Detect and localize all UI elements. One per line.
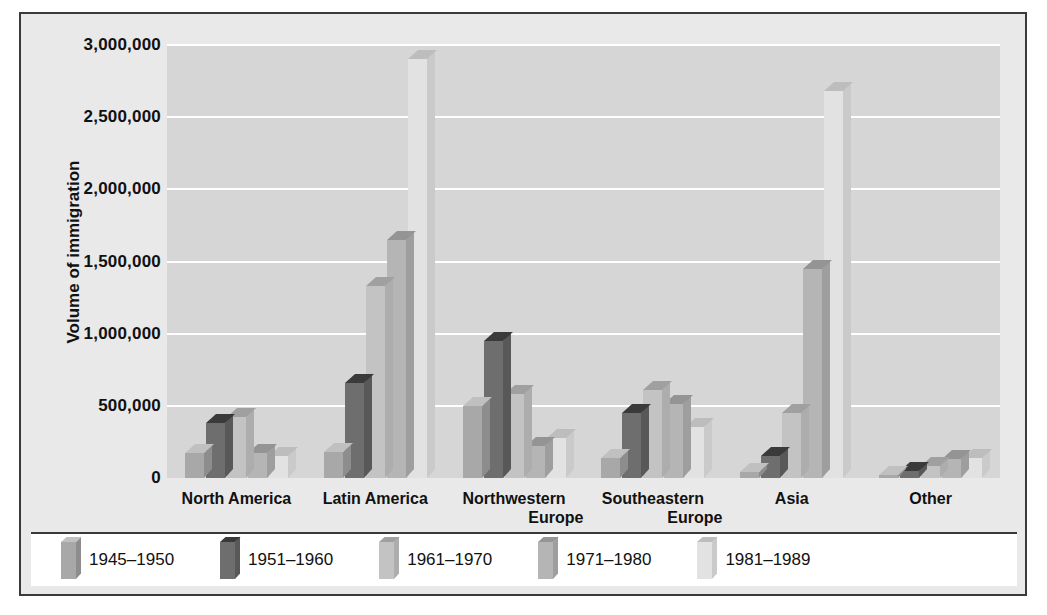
bar-group [601, 45, 704, 478]
bar-side-face [822, 260, 830, 478]
bar-side-face [683, 396, 691, 478]
chart-figure: Volume of immigration 3,000,0002,500,000… [0, 0, 1047, 615]
bar-side-face [524, 385, 532, 478]
bar-group [463, 45, 566, 478]
bar-side-face [843, 82, 851, 478]
y-tick-label: 0 [29, 468, 161, 488]
x-tick-label: Asia [722, 490, 861, 509]
legend-swatch [697, 542, 712, 579]
gridline [167, 44, 1000, 46]
legend-swatch [220, 542, 235, 579]
gridline [167, 188, 1000, 190]
bar-front-face [601, 458, 620, 478]
bar [463, 406, 482, 478]
legend-item[interactable]: 1961–1970 [379, 542, 492, 579]
x-tick-label-line: Northwestern [463, 490, 566, 507]
y-tick-label: 500,000 [29, 396, 161, 416]
bar-group [879, 45, 982, 478]
legend-swatch-side [394, 536, 399, 579]
y-tick-label: 2,500,000 [29, 107, 161, 127]
x-tick-label: SoutheasternEurope [584, 490, 723, 528]
legend-label: 1951–1960 [248, 550, 333, 570]
legend-swatch-front [379, 542, 394, 579]
legend-swatch-front [697, 542, 712, 579]
legend-item[interactable]: 1971–1980 [538, 542, 651, 579]
bar-side-face [662, 381, 670, 478]
y-tick-label: 1,000,000 [29, 324, 161, 344]
legend-swatch-side [712, 536, 717, 579]
bar-side-face [225, 414, 233, 478]
gridline [167, 261, 1000, 263]
legend-swatch-side [235, 536, 240, 579]
bar-front-face [740, 472, 759, 478]
x-tick-label-line: Other [909, 490, 952, 507]
bar [740, 472, 759, 478]
bar [185, 453, 204, 478]
legend-label: 1961–1970 [407, 550, 492, 570]
x-tick-label: Other [861, 490, 1000, 509]
legend-swatch [379, 542, 394, 579]
bar-side-face [482, 397, 490, 478]
bar-group [324, 45, 427, 478]
x-tick-label: NorthwesternEurope [445, 490, 584, 528]
bar [879, 475, 898, 478]
bar [324, 452, 343, 478]
y-tick-label: 3,000,000 [29, 35, 161, 55]
x-tick-label-line: Europe [584, 509, 723, 528]
legend-swatch [61, 542, 76, 579]
bar-side-face [427, 51, 435, 478]
x-tick-label: Latin America [306, 490, 445, 509]
bar-front-face [324, 452, 343, 478]
bar-front-face [463, 406, 482, 478]
bar-side-face [704, 419, 712, 478]
legend-label: 1971–1980 [566, 550, 651, 570]
y-tick-label: 2,000,000 [29, 179, 161, 199]
bar [601, 458, 620, 478]
legend-label: 1981–1989 [725, 550, 810, 570]
x-tick-label-line: Latin America [323, 490, 428, 507]
gridline [167, 116, 1000, 118]
bar-front-face [185, 453, 204, 478]
x-tick-label: North America [167, 490, 306, 509]
legend-item[interactable]: 1981–1989 [697, 542, 810, 579]
bar-side-face [801, 404, 809, 478]
legend-swatch [538, 542, 553, 579]
bar-side-face [246, 409, 254, 478]
bar-side-face [385, 277, 393, 478]
y-tick-label: 1,500,000 [29, 252, 161, 272]
gridline [167, 405, 1000, 407]
chart-legend: 1945–19501951–19601961–19701971–19801981… [31, 532, 1017, 586]
x-tick-label-line: Europe [445, 509, 584, 528]
bar-side-face [641, 404, 649, 478]
x-tick-label-line: North America [182, 490, 292, 507]
bar-group [740, 45, 843, 478]
legend-swatch-front [61, 542, 76, 579]
x-tick-label-line: Southeastern [602, 490, 704, 507]
legend-label: 1945–1950 [89, 550, 174, 570]
bar-group [185, 45, 288, 478]
legend-item[interactable]: 1945–1950 [61, 542, 174, 579]
bar-front-face [879, 475, 898, 478]
gridline [167, 333, 1000, 335]
y-axis-tick-labels: 3,000,0002,500,0002,000,0001,500,0001,00… [21, 14, 161, 598]
x-tick-label-line: Asia [775, 490, 809, 507]
legend-item[interactable]: 1951–1960 [220, 542, 333, 579]
legend-swatch-side [553, 536, 558, 579]
bar-side-face [503, 332, 511, 478]
legend-swatch-front [538, 542, 553, 579]
legend-swatch-front [220, 542, 235, 579]
bar-side-face [406, 231, 414, 478]
legend-swatch-side [76, 536, 81, 579]
plot-area [167, 45, 1000, 478]
bar-side-face [364, 374, 372, 478]
chart-panel: Volume of immigration 3,000,0002,500,000… [19, 12, 1027, 596]
